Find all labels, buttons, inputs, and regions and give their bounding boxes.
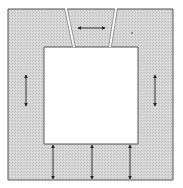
frame-diagram-svg	[0, 0, 183, 188]
frame-body	[8, 9, 173, 180]
marker-dot	[131, 32, 133, 34]
diagram	[0, 0, 183, 188]
